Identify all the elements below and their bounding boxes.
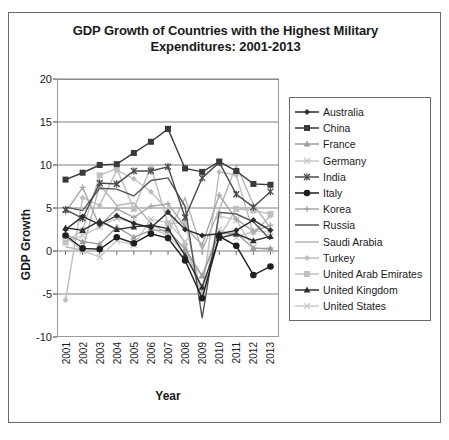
x-axis-tick-label: 2009 <box>197 342 208 364</box>
y-axis-tick-label: 15 <box>40 116 52 128</box>
x-axis-tick-label: 2003 <box>94 342 105 364</box>
legend-label: United States <box>323 300 386 312</box>
legend-item[interactable]: Italy <box>294 185 426 201</box>
legend-marker-icon <box>294 154 320 168</box>
legend-marker-icon <box>294 283 320 297</box>
x-axis-label: Year <box>57 389 279 403</box>
chart-legend: AustraliaChinaFranceGermanyIndiaItalyKor… <box>289 97 431 321</box>
legend-marker-icon <box>294 170 320 184</box>
plot-wrapper: 20151050-5-10 20012002200320042005200620… <box>57 79 279 337</box>
legend-item[interactable]: United Kingdom <box>294 282 426 298</box>
y-axis-tick-label: 5 <box>46 202 52 214</box>
legend-marker-icon <box>294 235 320 249</box>
x-axis-tick-label: 2005 <box>128 342 139 364</box>
legend-item[interactable]: France <box>294 136 426 152</box>
x-axis-tick-label: 2011 <box>231 342 242 364</box>
chart-svg <box>57 79 279 337</box>
legend-label: Australia <box>323 106 364 118</box>
x-axis-tick-label: 2004 <box>111 342 122 364</box>
legend-label: France <box>323 138 356 150</box>
legend-marker-icon <box>294 202 320 216</box>
legend-label: Russia <box>323 219 355 231</box>
x-axis-tick-label: 2001 <box>60 342 71 364</box>
x-axis-tick-label: 2006 <box>145 342 156 364</box>
legend-label: Korea <box>323 203 351 215</box>
legend-label: China <box>323 122 350 134</box>
legend-label: Turkey <box>323 252 355 264</box>
legend-label: United Kingdom <box>323 284 398 296</box>
chart-container: GDP Growth of Countries with the Highest… <box>8 12 441 423</box>
series-line <box>66 129 271 185</box>
legend-label: India <box>323 171 346 183</box>
x-axis-tick-label: 2013 <box>265 342 276 364</box>
legend-label: United Arab Emirates <box>323 268 422 280</box>
series-italy <box>62 231 274 302</box>
legend-item[interactable]: United Arab Emirates <box>294 266 426 282</box>
y-axis-tick-label: 10 <box>40 159 52 171</box>
legend-label: Saudi Arabia <box>323 236 383 248</box>
y-axis-tick-label: 20 <box>40 73 52 85</box>
y-axis-tick-label: -10 <box>36 331 52 343</box>
legend-item[interactable]: Korea <box>294 201 426 217</box>
legend-marker-icon <box>294 137 320 151</box>
x-axis-tick-label: 2010 <box>214 342 225 364</box>
legend-item[interactable]: Australia <box>294 104 426 120</box>
legend-item[interactable]: Russia <box>294 217 426 233</box>
legend-item[interactable]: Saudi Arabia <box>294 234 426 250</box>
legend-item[interactable]: United States <box>294 298 426 314</box>
legend-label: Italy <box>323 187 342 199</box>
x-axis-tick-label: 2012 <box>248 342 259 364</box>
legend-marker-icon <box>294 267 320 281</box>
legend-item[interactable]: India <box>294 169 426 185</box>
y-axis-label: GDP Growth <box>19 209 33 280</box>
x-axis-tick-label: 2002 <box>77 342 88 364</box>
y-axis-tick-label: 0 <box>46 245 52 257</box>
chart-title-line-2: Expenditures: 2001-2013 <box>9 39 442 55</box>
y-axis-tick-label: -5 <box>42 288 52 300</box>
legend-marker-icon <box>294 218 320 232</box>
legend-marker-icon <box>294 251 320 265</box>
legend-item[interactable]: Turkey <box>294 250 426 266</box>
legend-marker-icon <box>294 105 320 119</box>
legend-marker-icon <box>294 186 320 200</box>
x-axis-tick-label: 2007 <box>163 342 174 364</box>
legend-marker-icon <box>294 121 320 135</box>
x-axis-tick-label: 2008 <box>180 342 191 364</box>
legend-label: Germany <box>323 155 366 167</box>
chart-title: GDP Growth of Countries with the Highest… <box>9 23 442 55</box>
chart-title-line-1: GDP Growth of Countries with the Highest… <box>9 23 442 39</box>
legend-item[interactable]: Germany <box>294 153 426 169</box>
legend-item[interactable]: China <box>294 120 426 136</box>
legend-marker-icon <box>294 299 320 313</box>
